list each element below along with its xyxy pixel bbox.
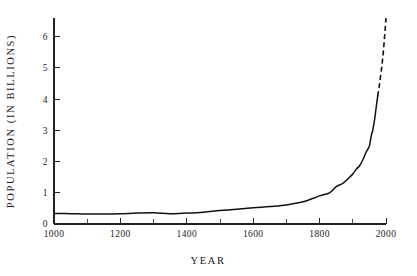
y-tick-label-2: 2 xyxy=(43,157,48,167)
y-tick-label-6: 6 xyxy=(43,32,48,42)
population-curve-historical xyxy=(54,96,378,214)
x-tick-label-2000: 2000 xyxy=(376,229,397,239)
x-tick-label-1000: 1000 xyxy=(44,229,65,239)
y-tick-label-0: 0 xyxy=(43,219,48,229)
y-tick-label-4: 4 xyxy=(43,95,48,105)
x-axis-tick-labels: 100012001400160018002000 xyxy=(44,229,397,239)
x-tick-label-1400: 1400 xyxy=(176,229,197,239)
population-curve-projected xyxy=(378,18,386,96)
population-growth-chart: 0123456 100012001400160018002000 YEAR PO… xyxy=(0,0,417,276)
x-tick-label-1600: 1600 xyxy=(243,229,264,239)
x-axis-ticks xyxy=(54,218,386,224)
x-tick-label-1200: 1200 xyxy=(110,229,131,239)
y-axis-tick-labels: 0123456 xyxy=(43,32,48,229)
y-tick-label-5: 5 xyxy=(43,63,48,73)
y-tick-label-3: 3 xyxy=(43,126,48,136)
y-axis-ticks xyxy=(54,37,60,224)
x-axis-title: YEAR xyxy=(191,255,226,266)
y-tick-label-1: 1 xyxy=(43,188,48,198)
y-axis-title: POPULATION (IN BILLIONS) xyxy=(5,34,17,208)
chart-canvas: 0123456 100012001400160018002000 YEAR PO… xyxy=(0,0,417,276)
x-tick-label-1800: 1800 xyxy=(309,229,330,239)
